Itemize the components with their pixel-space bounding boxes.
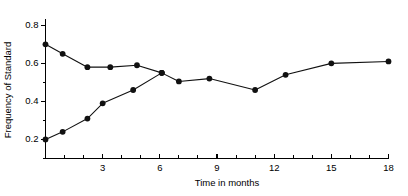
x-axis-ticks (65, 154, 389, 159)
chart-figure: 0.20.40.60.8 369121518 Time in months Fr… (0, 0, 408, 196)
data-point-marker (100, 100, 106, 106)
y-tick-label: 0.4 (25, 95, 38, 106)
x-tick-label: 15 (326, 162, 337, 173)
y-axis-tick-labels: 0.20.40.60.8 (25, 19, 38, 144)
data-point-marker (130, 87, 136, 93)
data-point-marker (134, 62, 140, 68)
data-point-marker (159, 70, 165, 76)
series-path (46, 44, 162, 73)
x-axis-title: Time in months (195, 177, 260, 188)
data-point-marker (43, 41, 49, 47)
data-series-group (43, 41, 392, 142)
data-point-marker (85, 64, 91, 70)
x-tick-label: 18 (383, 162, 394, 173)
data-point-marker (328, 60, 334, 66)
frequency-of-standard-line-chart: 0.20.40.60.8 369121518 Time in months Fr… (0, 0, 408, 196)
series-merged-trend (159, 59, 392, 93)
axes-group (46, 19, 389, 159)
series-upper-branch (43, 41, 165, 75)
x-tick-label: 6 (157, 162, 162, 173)
data-point-marker (60, 51, 66, 57)
x-tick-label: 9 (214, 162, 219, 173)
data-point-marker (43, 137, 49, 143)
y-tick-label: 0.8 (25, 19, 38, 30)
data-point-marker (283, 72, 289, 78)
x-tick-label: 3 (100, 162, 105, 173)
x-tick-label: 12 (269, 162, 280, 173)
data-point-marker (206, 76, 212, 82)
series-lower-branch (43, 70, 165, 142)
y-tick-label: 0.6 (25, 57, 38, 68)
data-point-marker (60, 129, 66, 135)
data-point-marker (386, 59, 392, 65)
y-axis-title: Frequency of Standard (2, 42, 13, 139)
series-path (162, 61, 389, 90)
x-axis-tick-labels: 369121518 (100, 162, 394, 173)
y-tick-label: 0.2 (25, 133, 38, 144)
data-point-marker (252, 87, 258, 93)
data-point-marker (107, 64, 113, 70)
data-point-marker (176, 79, 182, 85)
data-point-marker (85, 116, 91, 122)
